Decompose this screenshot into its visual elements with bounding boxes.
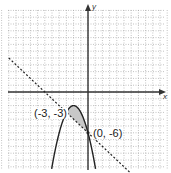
coordinate-graph (0, 0, 171, 173)
y-axis-arrow-icon (85, 4, 91, 11)
grid (2, 10, 168, 170)
x-axis-label: x (163, 93, 167, 101)
point-marker (86, 131, 89, 134)
y-axis-label: y (92, 3, 96, 11)
point-label: (0, -6) (92, 128, 123, 139)
point-label: (-3, -3) (33, 108, 68, 119)
shaded-region (66, 106, 88, 133)
